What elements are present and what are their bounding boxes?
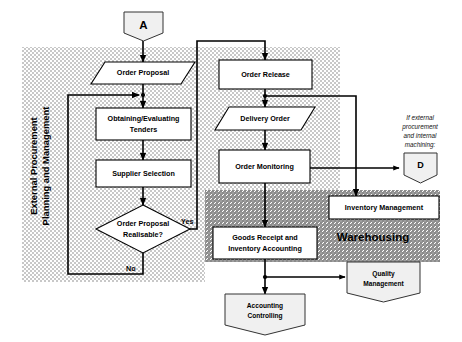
node-accounting-controlling[interactable]: Accounting Controlling	[225, 294, 305, 335]
note-line3: and internal	[404, 132, 438, 139]
accounting-controlling-label-line2: Controlling	[247, 312, 282, 320]
goods-receipt-label-line1: Goods Receipt and	[232, 233, 298, 242]
order-release-label: Order Release	[241, 70, 290, 79]
flowchart-canvas: External Procurement Planning and Manage…	[0, 0, 462, 342]
junction-dot-goods-receipt	[263, 275, 267, 279]
note-line2: procurement	[401, 123, 438, 131]
obtaining-tenders-label-line1: Obtaining/Evaluating	[108, 114, 180, 123]
flowchart-svg: External Procurement Planning and Manage…	[0, 0, 462, 342]
edge-label-yes: Yes	[181, 217, 193, 226]
delivery-order-label: Delivery Order	[240, 114, 290, 123]
quality-management-label-line1: Quality	[372, 270, 395, 278]
obtaining-tenders-label-line2: Tenders	[130, 125, 157, 134]
order-proposal-label: Order Proposal	[117, 68, 169, 77]
node-supplier-selection[interactable]: Supplier Selection	[96, 160, 191, 187]
accounting-controlling-label-line1: Accounting	[247, 302, 283, 310]
node-inventory-management[interactable]: Inventory Management	[329, 196, 439, 219]
region-label-external-procurement: External Procurement Planning and Manage…	[28, 107, 51, 226]
connector-a-label: A	[139, 19, 147, 31]
junction-dot-release	[263, 94, 267, 98]
decision-label-line2: Realisable?	[123, 230, 163, 239]
node-order-proposal[interactable]: Order Proposal	[91, 62, 195, 84]
node-connector-a[interactable]: A	[124, 12, 163, 41]
annotation-external-procurement-note: If external procurement and internal mac…	[401, 114, 438, 149]
inventory-management-label: Inventory Management	[345, 203, 424, 212]
region-label-warehousing: Warehousing	[337, 231, 409, 243]
quality-management-label-line2: Management	[363, 280, 404, 288]
note-line1: If external	[406, 114, 434, 121]
decision-label-line1: Order Proposal	[117, 219, 169, 228]
order-monitoring-label: Order Monitoring	[235, 162, 294, 171]
goods-receipt-label-line2: Inventory Accounting	[228, 244, 302, 253]
edge-label-no: No	[126, 264, 136, 273]
junction-dot-proposal	[141, 93, 145, 97]
node-goods-receipt[interactable]: Goods Receipt and Inventory Accounting	[213, 227, 317, 259]
node-obtaining-tenders[interactable]: Obtaining/Evaluating Tenders	[96, 108, 191, 140]
region-label-line2: Planning and Management	[40, 107, 51, 226]
note-line4: machining:	[405, 141, 436, 149]
connector-d-label: D	[417, 160, 424, 170]
node-order-release[interactable]: Order Release	[219, 60, 312, 89]
node-order-monitoring[interactable]: Order Monitoring	[219, 150, 310, 183]
supplier-selection-label: Supplier Selection	[112, 169, 175, 178]
region-label-line1: External Procurement	[28, 117, 39, 214]
node-quality-management[interactable]: Quality Management	[347, 262, 420, 302]
node-delivery-order[interactable]: Delivery Order	[215, 107, 315, 130]
node-connector-d[interactable]: D	[404, 153, 437, 183]
